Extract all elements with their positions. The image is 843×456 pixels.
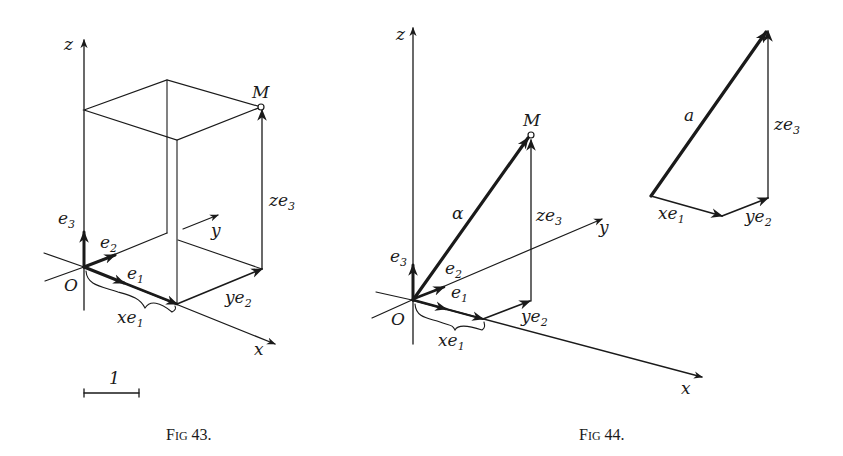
point-m-label: M [522,110,541,130]
box-top-face [84,80,261,140]
e2-label: e2 [100,232,117,255]
e1-label: e1 [127,263,144,286]
point-m-label: M [251,82,270,102]
y-axis-label: y [598,217,609,237]
scale-label: 1 [109,368,120,388]
xe1-label: xe1 [117,307,144,330]
ye2-label: ye2 [224,287,252,310]
box-bottom-edge [178,240,262,269]
ze3-label: ze3 [268,190,295,213]
z-axis-label: z [63,34,74,54]
vector-sum-triangle [651,31,768,216]
e3-label: e3 [58,208,75,231]
e3-label: e3 [390,246,407,269]
e2-label: e2 [445,258,462,281]
x-axis-negative [44,253,84,267]
x-axis-negative [376,292,412,300]
point-m [528,132,534,138]
y-axis-label: y [210,220,221,240]
z-axis-label: z [395,24,406,44]
xe1-vector [124,283,177,304]
triangle-alpha-vector [651,32,766,196]
triangle-labels: a ze3 xe1 ye2 [658,105,800,229]
e1-label: e1 [451,282,468,305]
triangle-ye2-label: ye2 [744,206,772,229]
origin-label: O [391,309,405,329]
figure-44-labels: z M α ze3 y e3 e2 e1 O ye2 xe1 x FIG44. [390,24,691,443]
vector-decomposition-figures: z M ze3 e3 e2 y e1 O ye2 xe1 x 1 FIG43. [0,0,843,456]
triangle-ze3-label: ze3 [773,114,800,137]
triangle-xe1-label: xe1 [658,203,685,226]
figure-44-caption: FIG44. [579,426,625,443]
origin-label: O [64,275,78,295]
xe1-label: xe1 [438,330,465,353]
ye2-label: ye2 [520,306,548,329]
x-axis-label: x [254,339,264,359]
e2-vector [84,255,115,267]
figure-43-caption: FIG43. [166,426,212,443]
e1-vector [413,300,446,309]
ze3-label: ze3 [535,205,562,228]
xe1-vector [446,309,483,319]
figure-43 [44,40,275,397]
point-m [258,104,264,110]
triangle-alpha-label: a [684,105,694,125]
x-axis-label: x [681,378,691,398]
alpha-label: α [452,203,464,223]
